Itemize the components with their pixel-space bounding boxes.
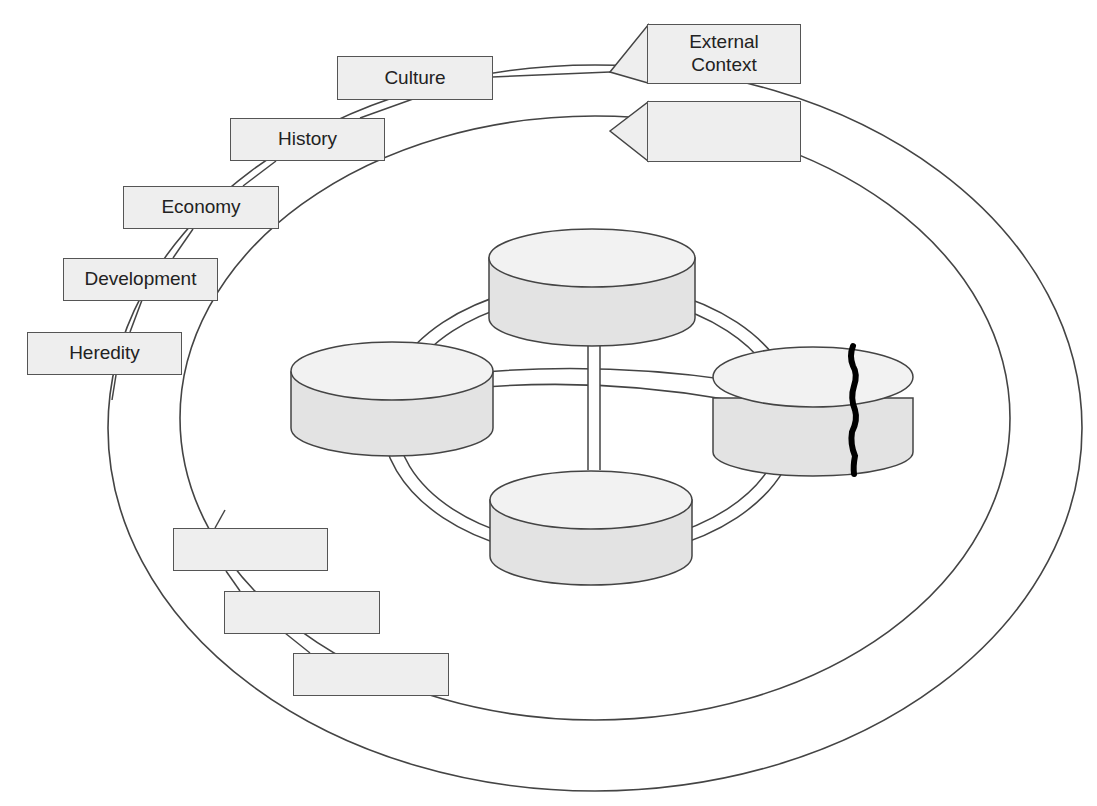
cylinder-left — [291, 342, 493, 456]
factor-history-text: History — [278, 128, 337, 151]
factor-history: History — [230, 118, 385, 161]
external-context-label: External Context — [647, 24, 801, 84]
factor-development: Development — [63, 258, 218, 301]
context-diagram — [0, 0, 1097, 806]
factor-culture-text: Culture — [384, 67, 445, 90]
external-context-text: External Context — [679, 31, 769, 77]
factor-culture: Culture — [337, 56, 493, 100]
inner-factor-2 — [224, 591, 380, 634]
cylinder-top — [489, 229, 695, 346]
cylinder-bottom — [490, 471, 692, 585]
factor-economy-text: Economy — [161, 196, 240, 219]
inner-context-label — [647, 101, 801, 162]
inner-factor-1 — [173, 528, 328, 571]
vertical-connector — [588, 331, 600, 470]
inner-context-pointer — [610, 102, 648, 161]
factor-development-text: Development — [85, 268, 197, 291]
external-context-pointer — [610, 25, 648, 83]
factor-heredity-text: Heredity — [69, 342, 140, 365]
cylinder-right-cracked — [713, 346, 913, 476]
factor-heredity: Heredity — [27, 332, 182, 375]
inner-factor-3 — [293, 653, 449, 696]
factor-economy: Economy — [123, 186, 279, 229]
